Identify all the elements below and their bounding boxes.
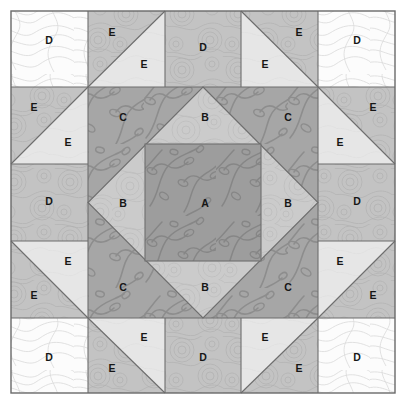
quilt-block-diagram: D D D D D D D D E E E E E E E E E E E E … <box>0 0 406 405</box>
label-hst-right-top-dark: E <box>369 101 376 113</box>
label-hst-right-bot-dark: E <box>369 289 376 301</box>
unit-hst-right-bottom <box>318 241 395 318</box>
label-hst-top-left-light: E <box>140 58 147 70</box>
quilt-block-canvas: D D D D D D D D E E E E E E E E E E E E … <box>0 0 406 405</box>
label-diamond-b-right: B <box>284 197 292 209</box>
label-diamond-b-bottom: B <box>201 281 209 293</box>
label-corner-br: D <box>353 351 361 363</box>
label-hst-left-bot-dark: E <box>30 289 37 301</box>
label-hst-top-right-dark: E <box>295 26 302 38</box>
label-hst-left-top-light: E <box>64 136 71 148</box>
label-diamond-b-left: B <box>119 197 127 209</box>
label-hst-bot-right-dark: E <box>295 362 302 374</box>
label-corner-tl: D <box>45 34 53 46</box>
patch-corner-tr <box>318 11 395 87</box>
label-hst-bot-right-light: E <box>261 331 268 343</box>
label-corner-triangle-c-br: C <box>284 281 292 293</box>
label-hst-bot-left-light: E <box>140 331 147 343</box>
unit-hst-top-left <box>88 11 165 87</box>
label-center-square-a: A <box>201 197 209 209</box>
label-diamond-b-top: B <box>201 111 209 123</box>
label-corner-triangle-c-tl: C <box>119 111 127 123</box>
label-hst-right-top-light: E <box>336 136 343 148</box>
unit-hst-bottom-right <box>241 318 318 393</box>
label-edge-left: D <box>45 195 53 207</box>
unit-hst-right-top <box>318 87 395 164</box>
unit-hst-left-bottom <box>11 241 88 318</box>
label-corner-triangle-c-bl: C <box>119 281 127 293</box>
label-hst-top-left-dark: E <box>108 26 115 38</box>
label-hst-bot-left-dark: E <box>108 362 115 374</box>
label-edge-bottom: D <box>199 351 207 363</box>
unit-hst-bottom-left <box>88 318 165 393</box>
patch-corner-tl <box>11 11 88 87</box>
label-edge-right: D <box>353 195 361 207</box>
label-corner-bl: D <box>45 351 53 363</box>
label-hst-left-top-dark: E <box>30 101 37 113</box>
label-corner-tr: D <box>353 34 361 46</box>
label-hst-right-bot-light: E <box>336 255 343 267</box>
unit-hst-top-right <box>241 11 318 87</box>
unit-hst-left-top <box>11 87 88 164</box>
label-hst-left-bot-light: E <box>64 255 71 267</box>
label-corner-triangle-c-tr: C <box>284 111 292 123</box>
label-hst-top-right-light: E <box>261 58 268 70</box>
label-edge-top: D <box>199 41 207 53</box>
